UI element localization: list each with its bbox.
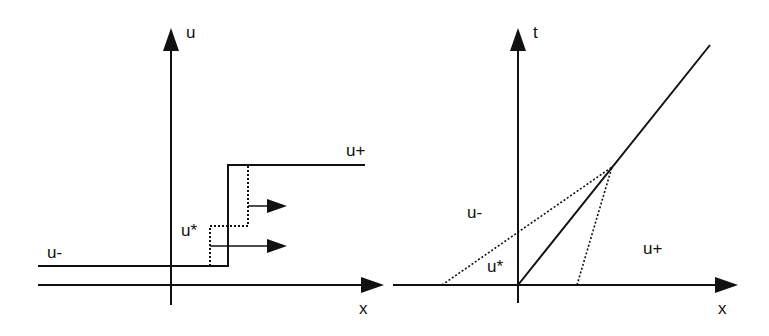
x-axis-right-arrow-icon [715, 277, 738, 293]
u-star-region-label: u* [487, 257, 503, 276]
shock-line [518, 45, 710, 285]
u-axis-label: u [186, 23, 195, 42]
right-characteristic-dotted [577, 167, 612, 285]
x-axis-right-label: x [718, 299, 727, 318]
u-minus-label: u- [47, 243, 62, 262]
lower-arrowhead-icon [267, 239, 287, 253]
t-axis-label: t [533, 23, 538, 42]
left-panel: u x u- u+ u* [38, 23, 384, 318]
riemann-problem-diagram: u x u- u+ u* t x u- u+ u* [0, 0, 769, 336]
u-star-label: u* [181, 221, 197, 240]
initial-step-profile [38, 165, 365, 266]
t-axis-arrow-icon [510, 28, 526, 51]
x-axis-label: x [359, 299, 368, 318]
left-characteristic-dotted [442, 167, 612, 285]
upper-arrowhead-icon [267, 199, 287, 213]
x-axis-arrow-icon [361, 277, 384, 293]
right-panel: t x u- u+ u* [393, 23, 738, 318]
u-plus-region-label: u+ [643, 239, 662, 258]
u-plus-label: u+ [346, 141, 365, 160]
u-axis-arrow-icon [163, 28, 179, 51]
u-minus-region-label: u- [467, 203, 482, 222]
